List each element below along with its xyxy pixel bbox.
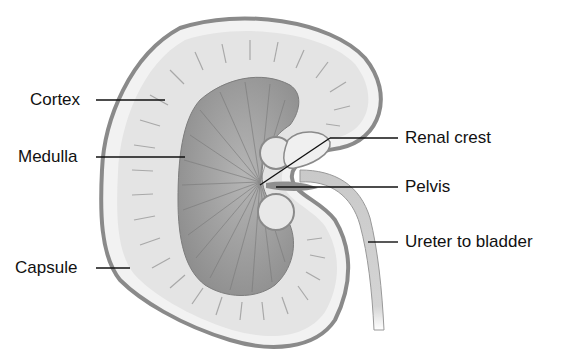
label-renal-crest: Renal crest [405,128,491,148]
label-medulla: Medulla [18,147,78,167]
kidney-diagram: Cortex Medulla Capsule Renal crest Pelvi… [0,0,584,363]
label-pelvis: Pelvis [405,177,450,197]
label-ureter: Ureter to bladder [405,232,533,252]
label-capsule: Capsule [15,258,77,278]
label-cortex: Cortex [30,90,80,110]
kidney-illustration [0,0,584,363]
